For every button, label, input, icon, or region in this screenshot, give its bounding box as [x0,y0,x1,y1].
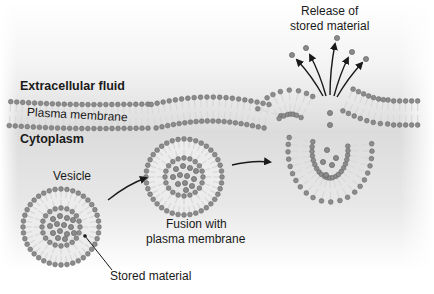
fusing-vesicle [144,137,225,218]
cargo-particle [182,180,187,185]
lipid-head [311,195,316,200]
cargo-particle [289,52,294,57]
lipid-head [140,126,145,131]
label-vesicle: Vesicle [53,170,91,183]
lipid-tail [291,145,298,146]
lipid-head [187,157,192,162]
lipid-head [192,95,197,100]
lipid-head [369,156,374,161]
lipid-head [116,126,121,131]
lipid-tail [351,145,358,146]
lipid-head [47,209,52,214]
lipid-head [304,91,309,96]
lipid-head [340,108,345,113]
lipid-head [40,225,45,230]
lipid-head [80,102,85,107]
lipid-head [208,201,213,206]
lipid-head [25,124,30,129]
lipid-head [296,88,301,93]
lipid-head [346,111,351,116]
lipid-head [64,243,69,248]
lipid-head [197,163,202,168]
lipid-head [215,192,220,197]
lipid-head [381,97,386,102]
lipid-head [7,123,12,128]
lipid-head [201,175,206,180]
lipid-head [193,211,198,216]
cargo-particle [62,236,67,241]
lipid-head [176,193,181,198]
lipid-head [144,181,149,186]
lipid-tail [194,101,195,108]
lipid-head [65,262,70,267]
lipid-head [204,205,209,210]
lipid-head [193,138,198,143]
lipid-head [97,102,102,107]
label-release-line1: Release of [301,5,358,18]
lipid-head [409,123,414,128]
lipid-head [64,207,69,212]
lipid-head [188,137,193,142]
lipid-tail [230,112,231,119]
lipid-head [95,236,100,241]
lipid-head [77,230,82,235]
lipid-head [97,225,102,230]
lipid-head [386,98,391,103]
cargo-particle [349,49,354,54]
cargo-particle [47,223,52,228]
lipid-head [170,159,175,164]
lipid-head [368,163,373,168]
lipid-head [403,123,408,128]
label-release-line2: stored material [290,20,369,33]
lipid-head [261,101,266,106]
lipid-head [28,202,33,207]
lipid-head [220,175,225,180]
lipid-head [376,97,381,102]
diagram-canvas [0,0,434,294]
lipid-head [22,236,27,241]
lipid-head [362,178,367,183]
lipid-head [182,120,187,125]
cargo-particle [327,110,332,115]
lipid-head [41,219,46,224]
lipid-head [53,243,58,248]
lipid-head [76,258,81,263]
lipid-head [215,157,220,162]
lipid-head [31,125,36,130]
lipid-tail [189,142,190,147]
lipid-head [36,255,41,260]
lipid-head [397,99,402,104]
lipid-head [224,95,229,100]
lipid-head [155,201,160,206]
lipid-head [319,199,324,204]
lipid-head [149,102,154,107]
lipid-head [267,102,272,107]
lipid-head [310,139,315,144]
lipid-head [89,247,94,252]
cargo-particle [61,222,66,227]
lipid-tail [189,112,190,119]
lipid-tail [213,182,218,183]
lipid-head [200,180,205,185]
lipid-head [78,225,83,230]
lipid-head [128,126,133,131]
lipid-head [59,206,64,211]
lipid-head [397,123,402,128]
cargo-particle [180,163,185,168]
lipid-tail [195,112,196,119]
lipid-head [41,258,46,263]
lipid-head [345,144,350,149]
lipid-head [164,141,169,146]
lipid-head [92,102,97,107]
cargo-particle [70,217,75,222]
cargo-particle [57,228,62,233]
lipid-head [193,159,198,164]
lipid-head [199,119,204,124]
lipid-head [8,99,13,104]
cargo-particle [170,174,175,179]
lipid-head [366,94,371,99]
lipid-head [43,236,48,241]
lipid-head [356,89,361,94]
lipid-head [286,142,291,147]
lipid-head [127,102,132,107]
